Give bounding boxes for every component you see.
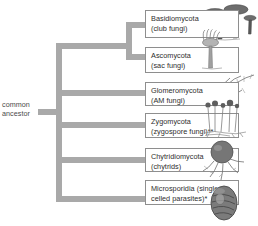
branch-tip-microsporidia [56,196,148,202]
taxon-label-zygomycota-line1: Zygomycota [151,117,234,127]
taxon-label-glomeromycota-line2: (AM fungi) [151,96,234,106]
taxon-box-basidiomycota[interactable]: Basidiomycota (club fungi) [145,10,239,38]
taxon-label-basidiomycota-line1: Basidiomycota [151,14,234,24]
branch-upper-clade [56,43,132,49]
taxon-label-ascomycota-line2: (sac fungi) [151,61,234,71]
common-ancestor-label-line1: common [2,100,44,109]
taxon-label-microsporidia-line1: Microsporidia (single- [151,184,234,194]
taxon-label-zygomycota-line2: (zygospore fungi)** [151,127,234,137]
taxon-label-basidiomycota-line2: (club fungi) [151,24,234,34]
taxon-box-microsporidia[interactable]: Microsporidia (single- celled parasites)… [145,180,239,205]
taxon-box-zygomycota[interactable]: Zygomycota (zygospore fungi)** [145,113,239,138]
taxon-label-ascomycota-line1: Ascomycota [151,51,234,61]
branch-tip-chytridiomycota [56,157,148,163]
taxon-label-chytridiomycota-line1: Chytridiomycota [151,152,234,162]
taxon-label-microsporidia-line2: celled parasites)* [151,194,234,204]
branch-tip-glomeromycota [56,90,148,96]
taxon-label-chytridiomycota-line2: (chytrids) [151,162,234,172]
taxon-box-glomeromycota[interactable]: Glomeromycota (AM fungi) [145,82,239,106]
taxon-box-chytridiomycota[interactable]: Chytridiomycota (chytrids) [145,148,239,172]
cladogram-diagram: common ancestor [0,0,258,226]
taxon-box-ascomycota[interactable]: Ascomycota (sac fungi) [145,47,239,73]
taxon-label-glomeromycota-line1: Glomeromycota [151,86,234,96]
branch-tip-zygomycota [56,122,148,128]
